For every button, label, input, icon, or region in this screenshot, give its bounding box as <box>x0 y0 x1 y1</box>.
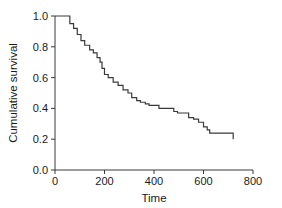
x-axis-ticks <box>55 170 253 174</box>
x-tick-label: 600 <box>194 175 212 187</box>
axis-spines <box>55 16 253 170</box>
x-tick-label: 200 <box>95 175 113 187</box>
chart-canvas: 0200400600800 0.00.20.40.60.81.0 Time Cu… <box>0 0 282 208</box>
survival-curve-path <box>55 16 233 139</box>
x-tick-label: 0 <box>52 175 58 187</box>
y-tick-label: 0.6 <box>33 72 48 84</box>
y-tick-label: 0.0 <box>33 164 48 176</box>
x-axis-tick-labels: 0200400600800 <box>52 175 262 187</box>
y-tick-label: 0.2 <box>33 133 48 145</box>
y-tick-label: 0.8 <box>33 41 48 53</box>
x-tick-label: 400 <box>145 175 163 187</box>
y-axis-title: Cumulative survival <box>7 43 19 143</box>
survival-step-line <box>55 16 233 139</box>
survival-chart-figure: 0200400600800 0.00.20.40.60.81.0 Time Cu… <box>0 0 282 208</box>
y-axis-ticks <box>51 16 55 170</box>
x-tick-label: 800 <box>244 175 262 187</box>
y-tick-label: 0.4 <box>33 102 48 114</box>
x-axis-title: Time <box>141 192 166 204</box>
y-axis-tick-labels: 0.00.20.40.60.81.0 <box>33 10 48 176</box>
y-tick-label: 1.0 <box>33 10 48 22</box>
